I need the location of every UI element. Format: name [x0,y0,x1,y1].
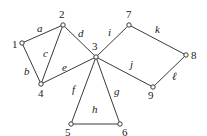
node-label-6: 6 [122,126,128,136]
edge-label-a: a [37,22,43,34]
edge-label-l: ℓ [172,70,177,82]
edge-label-h: h [92,103,98,115]
graph-diagram: abcdefghijkℓ 123456789 [0,0,207,136]
edge-label-g: g [114,85,120,97]
node-label-4: 4 [38,87,44,99]
edge-label-b: b [24,65,30,77]
node-label-2: 2 [59,8,65,20]
node-4 [39,82,43,86]
node-8 [184,53,188,57]
edge-l [153,55,186,87]
edge-label-i: i [108,26,111,38]
edge-j [96,57,153,87]
edge-i [96,25,129,57]
node-label-9: 9 [148,89,154,101]
node-label-8: 8 [191,49,197,61]
edges-layer [22,25,186,124]
node-1 [20,41,24,45]
node-label-5: 5 [65,126,71,136]
edge-label-k: k [155,23,161,35]
edge-label-f: f [72,83,77,95]
node-label-3: 3 [92,40,98,52]
node-2 [61,23,65,27]
node-label-7: 7 [126,8,132,20]
node-3 [94,55,98,59]
edge-label-j: j [128,58,133,70]
edge-label-d: d [78,27,84,39]
edge-label-c: c [43,47,48,59]
edge-b [22,43,41,84]
node-7 [127,23,131,27]
node-label-1: 1 [12,38,18,50]
edge-label-e: e [62,61,67,73]
